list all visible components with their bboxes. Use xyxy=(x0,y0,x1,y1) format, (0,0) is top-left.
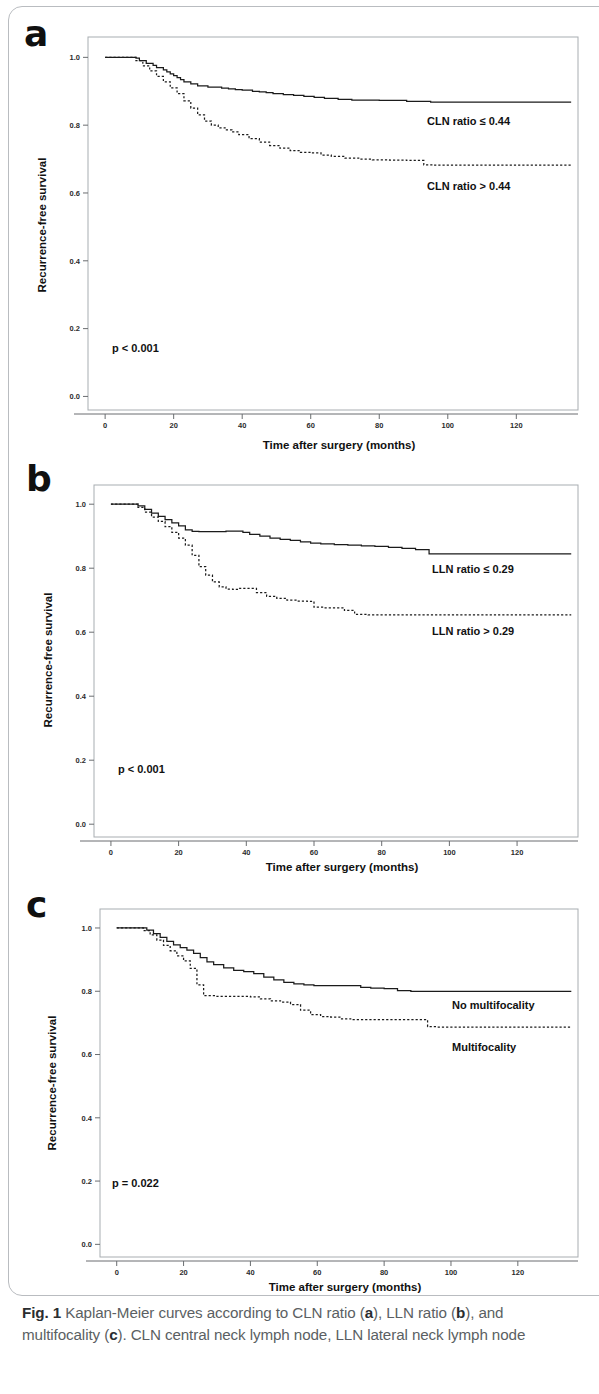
y-tick-label: 0.2 xyxy=(70,324,80,333)
survival-curve-lower xyxy=(111,504,571,615)
x-tick-label: 80 xyxy=(375,421,383,430)
p-value-annotation: p = 0.022 xyxy=(112,1177,159,1189)
y-tick-label: 1.0 xyxy=(76,500,86,509)
x-tick-label: 100 xyxy=(442,421,455,430)
x-tick-label: 40 xyxy=(246,1268,254,1277)
survival-curve-lower xyxy=(105,57,571,165)
caption-ref-b: b xyxy=(456,1304,465,1321)
panel-c: c 0.00.20.40.60.81.0020406080100120Time … xyxy=(0,875,599,1295)
y-tick-label: 0.8 xyxy=(70,121,80,130)
x-tick-label: 100 xyxy=(445,1268,458,1277)
y-tick-label: 0.0 xyxy=(70,392,80,401)
y-axis-title: Recurrence-free survival xyxy=(46,1016,58,1151)
plot-frame xyxy=(100,909,578,1257)
x-tick-label: 120 xyxy=(510,421,523,430)
x-tick-label: 0 xyxy=(115,1268,119,1277)
y-tick-label: 0.0 xyxy=(82,1240,92,1249)
p-value-annotation: p < 0.001 xyxy=(118,763,165,775)
y-tick-label: 0.6 xyxy=(76,628,86,637)
y-axis-title: Recurrence-free survival xyxy=(36,158,48,293)
y-tick-label: 0.8 xyxy=(82,987,92,996)
x-tick-label: 0 xyxy=(109,848,113,857)
chart-c: 0.00.20.40.60.81.0020406080100120Time af… xyxy=(0,875,599,1295)
x-tick-label: 120 xyxy=(511,848,524,857)
plot-frame xyxy=(94,485,578,837)
survival-curve-upper xyxy=(111,504,571,554)
y-tick-label: 0.4 xyxy=(82,1114,93,1123)
series-label-lower: CLN ratio > 0.44 xyxy=(427,180,511,192)
survival-curve-upper xyxy=(117,928,572,991)
y-tick-label: 0.6 xyxy=(70,189,80,198)
y-tick-label: 0.2 xyxy=(82,1177,92,1186)
series-label-upper: No multifocality xyxy=(452,999,535,1011)
caption-segment-4: ). CLN central neck lymph node, LLN late… xyxy=(117,1326,525,1343)
x-tick-label: 60 xyxy=(307,421,315,430)
caption-ref-a: a xyxy=(365,1304,373,1321)
y-tick-label: 0.4 xyxy=(70,257,81,266)
caption-segment-2: ), LLN ratio ( xyxy=(373,1304,456,1321)
y-tick-label: 1.0 xyxy=(82,924,92,933)
caption-segment-1: Kaplan-Meier curves according to CLN rat… xyxy=(61,1304,365,1321)
y-tick-label: 0.4 xyxy=(76,692,87,701)
figure-caption: Fig. 1 Kaplan-Meier curves according to … xyxy=(22,1302,578,1345)
panel-b: b 0.00.20.40.60.81.0020406080100120Time … xyxy=(0,455,599,875)
panel-a: a 0.00.20.40.60.81.0020406080100120Time … xyxy=(0,0,599,455)
series-label-lower: LLN ratio > 0.29 xyxy=(432,625,514,637)
p-value-annotation: p < 0.001 xyxy=(112,342,159,354)
x-tick-label: 100 xyxy=(443,848,456,857)
y-tick-label: 1.0 xyxy=(70,53,80,62)
x-axis-title: Time after surgery (months) xyxy=(266,861,419,873)
x-tick-label: 20 xyxy=(174,848,182,857)
y-tick-label: 0.8 xyxy=(76,564,86,573)
x-tick-label: 40 xyxy=(238,421,246,430)
x-tick-label: 0 xyxy=(103,421,107,430)
survival-curve-lower xyxy=(117,928,572,1027)
x-axis-title: Time after surgery (months) xyxy=(263,439,416,451)
x-tick-label: 60 xyxy=(310,848,318,857)
x-tick-label: 20 xyxy=(169,421,177,430)
figure-page: a 0.00.20.40.60.81.0020406080100120Time … xyxy=(0,0,599,1394)
plot-frame xyxy=(88,37,578,410)
survival-curve-upper xyxy=(105,57,571,102)
series-label-upper: CLN ratio ≤ 0.44 xyxy=(427,115,511,127)
x-tick-label: 20 xyxy=(179,1268,187,1277)
chart-a: 0.00.20.40.60.81.0020406080100120Time af… xyxy=(0,0,599,455)
y-tick-label: 0.0 xyxy=(76,820,86,829)
chart-b: 0.00.20.40.60.81.0020406080100120Time af… xyxy=(0,455,599,875)
y-tick-label: 0.2 xyxy=(76,756,86,765)
x-tick-label: 120 xyxy=(512,1268,525,1277)
x-tick-label: 60 xyxy=(313,1268,321,1277)
x-axis-title: Time after surgery (months) xyxy=(269,1281,422,1293)
x-tick-label: 80 xyxy=(378,848,386,857)
series-label-upper: LLN ratio ≤ 0.29 xyxy=(432,563,514,575)
caption-figure-number: Fig. 1 xyxy=(22,1304,61,1321)
series-label-lower: Multifocality xyxy=(452,1041,517,1053)
x-tick-label: 80 xyxy=(380,1268,388,1277)
y-tick-label: 0.6 xyxy=(82,1050,92,1059)
y-axis-title: Recurrence-free survival xyxy=(42,593,54,728)
x-tick-label: 40 xyxy=(242,848,250,857)
